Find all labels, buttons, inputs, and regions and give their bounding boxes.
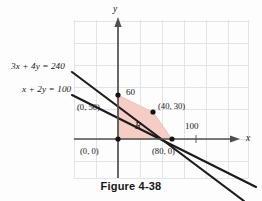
- region-label-R: R: [135, 121, 141, 131]
- y-axis-label: y: [113, 5, 117, 15]
- vertex-dot-0-50: [115, 92, 120, 97]
- y-intercept-60-label: 60: [126, 88, 135, 97]
- vertex-dot-80-0: [169, 136, 174, 141]
- equation-label-x-2y-100: x + 2y = 100: [22, 85, 71, 94]
- graph-plot: [0, 0, 262, 201]
- figure-container: 3x + 4y = 240 x + 2y = 100 60 100 (0, 50…: [0, 0, 262, 201]
- x-axis-label: x: [246, 134, 250, 144]
- y-axis-arrow-icon: [114, 17, 121, 27]
- x-axis-arrow-icon: [230, 135, 240, 142]
- equation-label-3x-4y-240: 3x + 4y = 240: [11, 62, 65, 71]
- vertex-label-0-50: (0, 50): [77, 103, 100, 112]
- x-value-100-label: 100: [185, 122, 199, 131]
- vertex-label-40-30: (40, 30): [158, 102, 185, 111]
- vertex-dot-0-0: [115, 136, 120, 141]
- vertex-label-0-0: (0, 0): [80, 147, 99, 156]
- figure-caption: Figure 4-38: [0, 180, 262, 192]
- vertex-label-80-0: (80, 0): [152, 147, 175, 156]
- vertex-dot-40-30: [150, 109, 155, 114]
